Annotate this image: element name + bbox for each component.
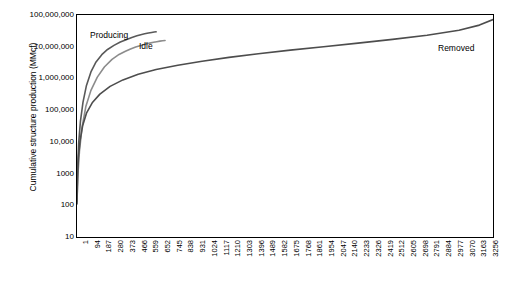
x-tick-label: 1675 bbox=[292, 240, 301, 257]
x-tick-label: 1 bbox=[81, 240, 90, 244]
x-tick-label: 373 bbox=[128, 240, 137, 253]
x-tick-label: 1861 bbox=[315, 240, 324, 257]
y-tick-label: 100 bbox=[6, 201, 74, 209]
x-tick-label: 2047 bbox=[339, 240, 348, 257]
x-tick-label: 931 bbox=[198, 240, 207, 253]
x-tick-label: 745 bbox=[175, 240, 184, 253]
x-tick-label: 2605 bbox=[409, 240, 418, 257]
x-tick-label: 1489 bbox=[268, 240, 277, 257]
x-tick-label: 1303 bbox=[245, 240, 254, 257]
x-tick-label: 3070 bbox=[468, 240, 477, 257]
x-tick-label: 2977 bbox=[456, 240, 465, 257]
x-tick-label: 652 bbox=[163, 240, 172, 253]
x-tick-label: 559 bbox=[151, 240, 160, 253]
y-tick-label: 10 bbox=[6, 233, 74, 241]
x-tick-label: 1582 bbox=[280, 240, 289, 257]
x-tick-label: 280 bbox=[116, 240, 125, 253]
x-tick-label: 466 bbox=[140, 240, 149, 253]
y-axis-tick-labels: 100,000,00010,000,0001,000,000100,00010,… bbox=[0, 14, 74, 238]
y-tick-label: 10,000,000 bbox=[6, 43, 74, 51]
x-tick-label: 187 bbox=[104, 240, 113, 253]
x-tick-label: 1954 bbox=[327, 240, 336, 257]
x-tick-label: 1024 bbox=[210, 240, 219, 257]
x-tick-label: 1210 bbox=[233, 240, 242, 257]
x-tick-label: 2140 bbox=[350, 240, 359, 257]
y-tick-label: 10,000 bbox=[6, 138, 74, 146]
x-tick-label: 2884 bbox=[444, 240, 453, 257]
series-label-idle: Idle bbox=[139, 41, 153, 51]
x-tick-label: 2791 bbox=[432, 240, 441, 257]
x-tick-label: 838 bbox=[186, 240, 195, 253]
x-tick-label: 1768 bbox=[304, 240, 313, 257]
x-tick-label: 1117 bbox=[222, 240, 231, 256]
series-label-producing: Producing bbox=[90, 30, 128, 40]
y-tick-label: 100,000 bbox=[6, 106, 74, 114]
x-tick-label: 94 bbox=[93, 240, 102, 248]
series-line-idle bbox=[77, 41, 165, 202]
series-label-removed: Removed bbox=[438, 43, 474, 53]
x-tick-label: 1396 bbox=[257, 240, 266, 257]
y-tick-label: 100,000,000 bbox=[6, 11, 74, 19]
x-tick-label: 2698 bbox=[421, 240, 430, 257]
x-tick-label: 2326 bbox=[374, 240, 383, 257]
x-tick-label: 3256 bbox=[491, 240, 500, 257]
x-tick-label: 2512 bbox=[397, 240, 406, 257]
y-tick-label: 1,000,000 bbox=[6, 74, 74, 82]
x-axis-tick-labels: 1941872803734665596527458389311024111712… bbox=[76, 240, 494, 292]
x-tick-label: 2233 bbox=[362, 240, 371, 257]
chart-container: Cumulative structure production (MMcf) 1… bbox=[0, 0, 508, 294]
y-tick-label: 1000 bbox=[6, 170, 74, 178]
x-tick-label: 3163 bbox=[479, 240, 488, 257]
x-tick-label: 2419 bbox=[386, 240, 395, 257]
